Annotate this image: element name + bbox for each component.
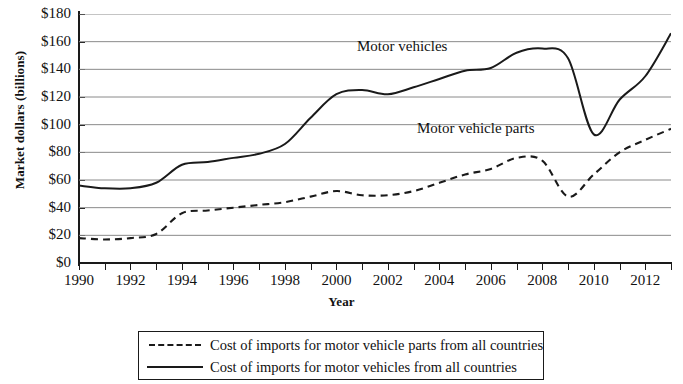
y-axis-tick-label: $160 [11,34,71,49]
x-axis-tick-mark [362,264,363,270]
legend-item-motor-vehicle-parts: Cost of imports for motor vehicle parts … [147,333,543,357]
y-axis-tick-label: $120 [11,89,71,104]
x-axis-tick-mark [465,264,466,270]
legend-label-motor-vehicles: Cost of imports for motor vehicles from … [210,359,517,375]
series-line-motor-vehicle-parts [79,129,671,240]
y-axis-tick-label: $180 [11,6,71,21]
x-axis-tick-mark [156,264,157,270]
x-axis-tick-mark [517,264,518,270]
legend: Cost of imports for motor vehicle parts … [138,331,544,380]
legend-item-motor-vehicles: Cost of imports for motor vehicles from … [147,355,517,379]
x-axis-tick-mark [620,264,621,270]
y-axis-tick-label: $100 [11,117,71,132]
y-axis-tick-label: $20 [11,227,71,242]
x-axis-tick-mark [542,264,543,270]
x-axis-title: Year [0,294,683,310]
y-axis-tick-label: $80 [11,144,71,159]
x-axis-tick-mark [414,264,415,270]
legend-swatch-solid-icon [147,361,203,373]
x-axis-tick-mark [336,264,337,270]
x-axis-tick-mark [259,264,260,270]
legend-label-motor-vehicle-parts: Cost of imports for motor vehicle parts … [210,337,543,353]
x-axis-tick-mark [671,264,672,270]
annotation-motor-vehicle-parts: Motor vehicle parts [417,120,534,136]
x-axis-tick-mark [182,264,183,270]
chart-figure: Market dollars (billions) $0$20$40$60$80… [0,0,683,384]
x-axis-tick-mark [439,264,440,270]
series-line-motor-vehicles [79,33,671,188]
x-axis-tick-mark [233,264,234,270]
x-axis-tick-label: 2012 [615,272,675,288]
x-axis-tick-mark [311,264,312,270]
x-axis-tick-mark [285,264,286,270]
x-axis-tick-mark [388,264,389,270]
y-axis-tick-labels: $0$20$40$60$80$100$120$140$160$180 [5,0,71,290]
y-axis-tick-label: $140 [11,61,71,76]
x-axis-tick-mark [594,264,595,270]
x-axis-tick-mark [568,264,569,270]
x-axis-tick-mark [491,264,492,270]
legend-swatch-dashed-icon [147,339,203,351]
x-axis-tick-mark [79,264,80,270]
x-axis-tick-mark [645,264,646,270]
x-axis-tick-mark [105,264,106,270]
y-axis-tick-label: $40 [11,200,71,215]
y-axis-tick-label: $0 [11,255,71,270]
x-axis-tick-mark [208,264,209,270]
x-axis-tick-mark [130,264,131,270]
annotation-motor-vehicles: Motor vehicles [357,38,447,54]
y-axis-tick-label: $60 [11,172,71,187]
